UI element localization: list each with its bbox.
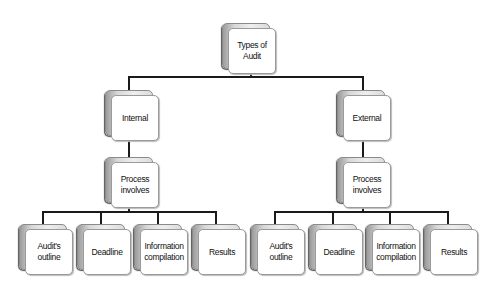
node-box: Internal — [111, 95, 159, 141]
node-internal-information-compilation: Information compilation — [140, 229, 188, 275]
node-external-process: Process involves — [343, 162, 391, 208]
node-external-results: Results — [430, 229, 478, 275]
node-external-audits-outline: Audit's outline — [257, 229, 305, 275]
node-internal-deadline: Deadline — [83, 229, 131, 275]
node-internal-results: Results — [198, 229, 246, 275]
node-label: Deadline — [91, 247, 122, 258]
node-box: Information compilation — [140, 229, 188, 275]
node-label: Results — [441, 247, 467, 258]
node-box: Audit's outline — [25, 229, 73, 275]
connector-internal-child-3 — [157, 211, 159, 224]
node-label: Types of Audit — [237, 40, 267, 62]
node-box: External — [343, 95, 391, 141]
node-label: Results — [209, 247, 235, 258]
node-label: Process involves — [353, 174, 382, 196]
node-external-deadline: Deadline — [315, 229, 363, 275]
connector-internal-to-process — [128, 140, 130, 158]
node-internal-audits-outline: Audit's outline — [25, 229, 73, 275]
node-box: Audit's outline — [257, 229, 305, 275]
node-label: Information compilation — [376, 241, 416, 263]
node-box: Information compilation — [372, 229, 420, 275]
node-label: Internal — [122, 113, 148, 124]
node-box: Results — [430, 229, 478, 275]
node-box: Process involves — [343, 162, 391, 208]
node-label: Process involves — [121, 174, 150, 196]
connector-external-child-2 — [332, 211, 334, 224]
node-label: Deadline — [323, 247, 354, 258]
connector-internal-children-horizontal — [42, 211, 217, 213]
connector-to-external — [362, 76, 364, 90]
node-box: Types of Audit — [228, 28, 276, 74]
node-internal-process: Process involves — [111, 162, 159, 208]
node-types-of-audit: Types of Audit — [228, 28, 276, 74]
node-external: External — [343, 95, 391, 141]
node-box: Deadline — [315, 229, 363, 275]
connector-internal-child-1 — [42, 211, 44, 224]
node-label: Audit's outline — [37, 241, 60, 263]
node-label: Audit's outline — [269, 241, 292, 263]
node-label: Information compilation — [144, 241, 184, 263]
connector-external-children-horizontal — [274, 211, 449, 213]
connector-to-internal — [128, 76, 130, 90]
node-label: External — [353, 113, 382, 124]
node-box: Deadline — [83, 229, 131, 275]
connector-internal-child-2 — [100, 211, 102, 224]
connector-external-child-3 — [389, 211, 391, 224]
connector-external-to-process — [362, 140, 364, 158]
node-external-information-compilation: Information compilation — [372, 229, 420, 275]
node-box: Process involves — [111, 162, 159, 208]
connector-root-horizontal — [128, 76, 364, 78]
connector-external-child-1 — [274, 211, 276, 224]
connector-external-child-4 — [447, 211, 449, 224]
connector-internal-child-4 — [215, 211, 217, 224]
node-internal: Internal — [111, 95, 159, 141]
node-box: Results — [198, 229, 246, 275]
